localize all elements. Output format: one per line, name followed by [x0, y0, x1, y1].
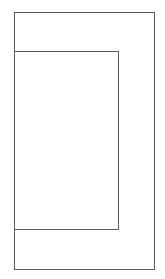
- inner-rectangle: [14, 51, 119, 230]
- diagram-canvas: [0, 0, 165, 279]
